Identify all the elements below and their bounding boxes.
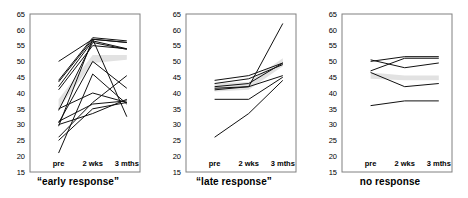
- series-line: [371, 60, 439, 68]
- figure-root: 6560555045403530252015pre2 wks3 mths“ear…: [0, 0, 468, 198]
- y-tick-label: 60: [17, 26, 25, 35]
- plot-frame: [186, 14, 296, 172]
- panel-2: 6560555045403530252015pre2 wks3 mths“lat…: [156, 0, 312, 198]
- y-tick-label: 65: [173, 10, 181, 19]
- y-tick-label: 65: [17, 10, 25, 19]
- series-group: [371, 57, 439, 106]
- y-tick-label: 50: [173, 57, 181, 66]
- y-tick-label: 35: [329, 105, 337, 114]
- x-tick-label: 3 mths: [427, 159, 451, 168]
- y-tick-label: 60: [329, 26, 337, 35]
- x-tick-label: pre: [209, 159, 221, 168]
- panel-plot-1: 6560555045403530252015pre2 wks3 mths: [0, 0, 156, 198]
- y-axis-ticks: 6560555045403530252015: [17, 10, 25, 177]
- y-tick-label: 35: [17, 105, 25, 114]
- y-tick-label: 55: [329, 41, 337, 50]
- series-group: [215, 23, 283, 137]
- x-axis-ticks: pre2 wks3 mths: [209, 159, 295, 168]
- x-tick-label: 2 wks: [82, 159, 102, 168]
- panel-plot-2: 6560555045403530252015pre2 wks3 mths: [156, 0, 312, 198]
- y-tick-label: 20: [173, 152, 181, 161]
- y-axis-ticks: 6560555045403530252015: [329, 10, 337, 177]
- y-tick-label: 40: [329, 89, 337, 98]
- y-tick-label: 40: [173, 89, 181, 98]
- panel-plot-3: 6560555045403530252015pre2 wks3 mths: [312, 0, 468, 198]
- series-line: [371, 101, 439, 106]
- panel-1: 6560555045403530252015pre2 wks3 mths“ear…: [0, 0, 156, 198]
- x-tick-label: 2 wks: [238, 159, 258, 168]
- panel-caption-2: “late response”: [156, 176, 312, 187]
- y-tick-label: 25: [329, 136, 337, 145]
- x-tick-label: 3 mths: [271, 159, 295, 168]
- y-tick-label: 50: [17, 57, 25, 66]
- y-tick-label: 55: [17, 41, 25, 50]
- y-tick-label: 55: [173, 41, 181, 50]
- y-tick-label: 60: [173, 26, 181, 35]
- series-group: [59, 38, 127, 153]
- y-tick-label: 30: [329, 120, 337, 129]
- y-tick-label: 25: [17, 136, 25, 145]
- y-tick-label: 65: [329, 10, 337, 19]
- series-line: [59, 76, 127, 138]
- y-axis-ticks: 6560555045403530252015: [173, 10, 181, 177]
- x-tick-label: 2 wks: [394, 159, 414, 168]
- panel-caption-3: no response: [312, 176, 468, 187]
- x-tick-label: pre: [53, 159, 65, 168]
- panel-caption-1: “early response”: [0, 176, 156, 187]
- y-tick-label: 30: [173, 120, 181, 129]
- x-tick-label: pre: [365, 159, 377, 168]
- x-axis-ticks: pre2 wks3 mths: [53, 159, 139, 168]
- plot-frame: [342, 14, 452, 172]
- y-tick-label: 45: [173, 73, 181, 82]
- y-tick-label: 45: [17, 73, 25, 82]
- y-tick-label: 20: [17, 152, 25, 161]
- y-tick-label: 30: [17, 120, 25, 129]
- x-axis-ticks: pre2 wks3 mths: [365, 159, 451, 168]
- y-tick-label: 40: [17, 89, 25, 98]
- y-tick-label: 20: [329, 152, 337, 161]
- panel-3: 6560555045403530252015pre2 wks3 mthsno r…: [312, 0, 468, 198]
- y-tick-label: 45: [329, 73, 337, 82]
- x-tick-label: 3 mths: [115, 159, 139, 168]
- y-tick-label: 50: [329, 57, 337, 66]
- y-tick-label: 25: [173, 136, 181, 145]
- series-line: [371, 57, 439, 62]
- y-tick-label: 35: [173, 105, 181, 114]
